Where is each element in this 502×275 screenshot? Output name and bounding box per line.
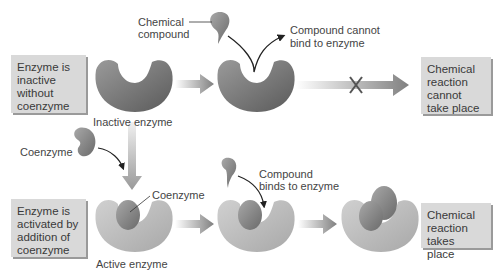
label-coenzyme-bound: Coenzyme [152,189,205,202]
chemical-compound-shape [210,12,229,44]
label-binds-2: binds to enzyme [259,180,339,193]
box-reaction-cannot: Chemical reaction cannot take place [421,57,491,114]
active-enzyme-shape [95,200,172,252]
label-chemical-compound-1: Chemical [138,16,184,29]
enzyme-substrate-complex-shape [341,186,418,252]
inactive-enzyme-shape-2 [217,60,294,112]
box-enzyme-activated: Enzyme is activated by addition of coenz… [11,199,86,257]
inactive-enzyme-shape [95,60,172,112]
label-inactive-enzyme: Inactive enzyme [93,116,172,129]
label-cannot-bind-1: Compound cannot [290,24,380,37]
label-chemical-compound-2: compound [138,28,189,41]
label-active-enzyme: Active enzyme [96,258,168,271]
label-cannot-bind-2: bind to enzyme [290,37,365,50]
box-enzyme-inactive: Enzyme is inactive without coenzyme [11,55,86,113]
coenzyme-shape [74,127,95,156]
label-binds-1: Compound [259,168,313,181]
label-coenzyme-top: Coenzyme [20,146,73,159]
box-reaction-takes: Chemical reaction takes place [421,203,491,248]
active-enzyme-shape-2 [217,200,294,252]
